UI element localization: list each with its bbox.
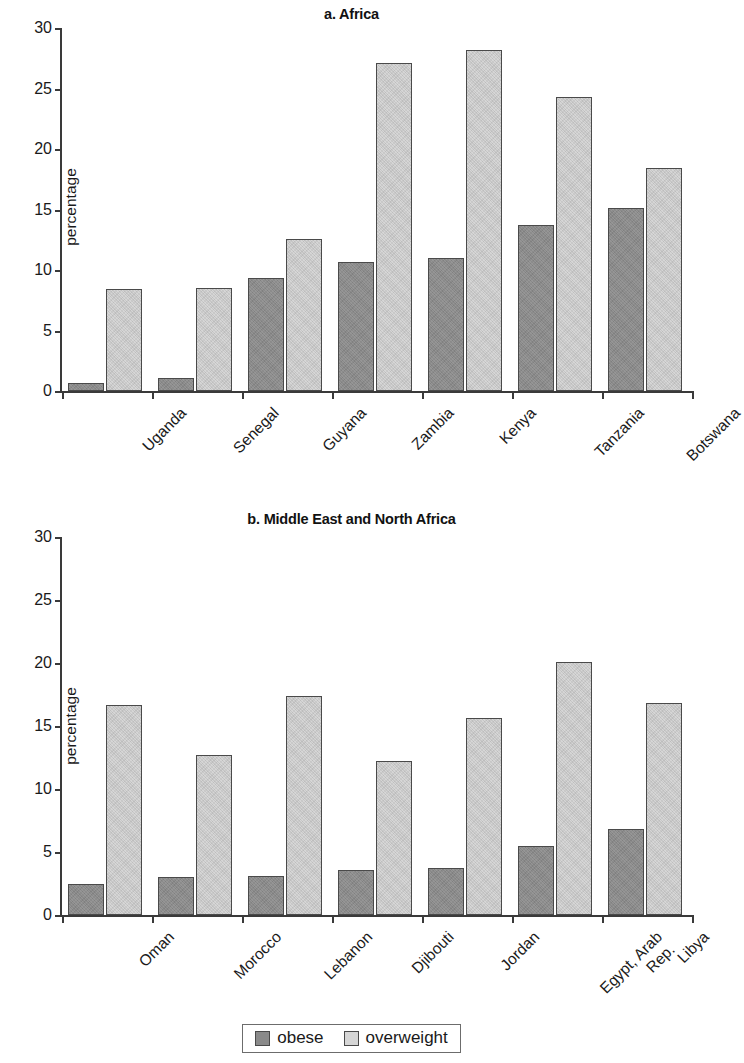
bar-overweight-botswana [646, 168, 682, 391]
x-axis-tick [332, 391, 334, 399]
y-axis-tick [55, 600, 62, 602]
legend-swatch-overweight-icon [344, 1031, 359, 1046]
bar-overweight-jordan [466, 718, 502, 915]
x-axis-tick [602, 391, 604, 399]
y-axis-tick-label: 20 [34, 654, 52, 672]
x-axis-label: Oman [135, 928, 178, 971]
y-axis-tick-label: 25 [34, 591, 52, 609]
x-axis-tick [512, 391, 514, 399]
y-axis-tick [55, 915, 62, 917]
y-axis-tick [55, 663, 62, 665]
legend-label-overweight: overweight [366, 1028, 448, 1048]
bar-obese-jordan [428, 868, 464, 915]
y-axis-tick [55, 210, 62, 212]
x-axis-tick [152, 915, 154, 923]
plot-area-mena: percentage 051015202530 [60, 537, 692, 917]
y-axis-tick [55, 852, 62, 854]
y-axis-tick [55, 537, 62, 539]
y-axis-tick [55, 270, 62, 272]
y-axis-title-mena: percentage [62, 676, 80, 776]
legend-swatch-obese-icon [255, 1031, 270, 1046]
y-axis-tick [55, 89, 62, 91]
bar-obese-djibouti [338, 870, 374, 915]
x-axis-tick [242, 391, 244, 399]
bar-obese-botswana [608, 208, 644, 391]
y-axis-tick [55, 391, 62, 393]
bar-overweight-guyana [286, 239, 322, 391]
chart-panel-mena: b. Middle East and North Africa percenta… [0, 505, 703, 1025]
x-axis-label: Libya [674, 928, 713, 967]
bar-overweight-kenya [466, 50, 502, 391]
y-axis-tick-label: 25 [34, 80, 52, 98]
y-axis-title-africa: percentage [62, 157, 80, 257]
x-axis-label: Zambia [408, 404, 457, 453]
bar-overweight-djibouti [376, 761, 412, 915]
bar-obese-libya [608, 829, 644, 915]
bar-overweight-zambia [376, 63, 412, 391]
x-axis-tick [602, 915, 604, 923]
x-axis-tick [692, 391, 694, 399]
x-axis-tick [332, 915, 334, 923]
x-axis-tick [422, 391, 424, 399]
x-axis-tick [152, 391, 154, 399]
y-axis-tick-label: 30 [34, 19, 52, 37]
bar-obese-egyptarabrep [518, 846, 554, 915]
bar-overweight-morocco [196, 755, 232, 915]
bar-overweight-egyptarabrep [556, 662, 592, 915]
x-axis-label: Tanzania [591, 404, 648, 461]
x-axis-label: Botswana [683, 404, 744, 465]
y-axis-tick [55, 726, 62, 728]
y-axis-tick [55, 149, 62, 151]
legend-item-obese: obese [255, 1028, 323, 1048]
bar-obese-guyana [248, 278, 284, 391]
bar-obese-oman [68, 884, 104, 916]
x-axis-tick [692, 915, 694, 923]
x-axis-label: Djibouti [408, 928, 457, 977]
x-axis-label: Lebanon [321, 928, 377, 984]
legend-label-obese: obese [277, 1028, 323, 1048]
y-axis-tick [55, 28, 62, 30]
y-axis-tick-label: 5 [43, 843, 52, 861]
bar-overweight-senegal [196, 288, 232, 391]
chart-panel-africa: a. Africa percentage 051015202530 Uganda… [0, 0, 703, 500]
y-axis-tick-label: 0 [43, 906, 52, 924]
bar-obese-morocco [158, 877, 194, 915]
bar-overweight-tanzania [556, 97, 592, 391]
x-axis-label: Kenya [496, 404, 540, 448]
bar-obese-uganda [68, 383, 104, 391]
chart-legend: obese overweight [0, 1024, 703, 1053]
chart-title-mena: b. Middle East and North Africa [0, 511, 703, 527]
x-axis-label: Morocco [230, 928, 285, 983]
x-axis-label: Jordan [497, 928, 543, 974]
bar-obese-tanzania [518, 225, 554, 391]
y-axis-tick [55, 789, 62, 791]
bar-overweight-uganda [106, 289, 142, 391]
x-axis-label: Uganda [139, 404, 190, 455]
y-axis-tick-label: 15 [34, 717, 52, 735]
x-axis-label: Guyana [319, 404, 370, 455]
y-axis-tick-label: 5 [43, 322, 52, 340]
bar-obese-zambia [338, 262, 374, 391]
bar-overweight-libya [646, 703, 682, 915]
x-axis-tick [422, 915, 424, 923]
x-axis-tick [62, 391, 64, 399]
y-axis-tick-label: 10 [34, 261, 52, 279]
x-axis-label: Senegal [230, 404, 283, 457]
y-axis-tick [55, 331, 62, 333]
x-axis-tick [242, 915, 244, 923]
x-axis-tick [62, 915, 64, 923]
y-axis-tick-label: 20 [34, 140, 52, 158]
y-axis-tick-label: 15 [34, 201, 52, 219]
legend-box: obese overweight [242, 1024, 461, 1053]
bar-obese-lebanon [248, 876, 284, 915]
x-axis-label: Egypt, Arab Rep. [596, 928, 679, 1011]
legend-item-overweight: overweight [344, 1028, 448, 1048]
y-axis-tick-label: 0 [43, 382, 52, 400]
y-axis-tick-label: 10 [34, 780, 52, 798]
bar-overweight-oman [106, 705, 142, 915]
chart-title-africa: a. Africa [0, 6, 703, 22]
bar-obese-kenya [428, 258, 464, 391]
x-axis-tick [512, 915, 514, 923]
bar-obese-senegal [158, 378, 194, 391]
y-axis-tick-label: 30 [34, 528, 52, 546]
